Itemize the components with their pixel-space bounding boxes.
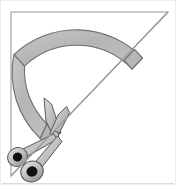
illustration-svg (0, 0, 176, 185)
illustration-canvas: Scissors cutting a curved paper arc on a… (0, 0, 176, 185)
